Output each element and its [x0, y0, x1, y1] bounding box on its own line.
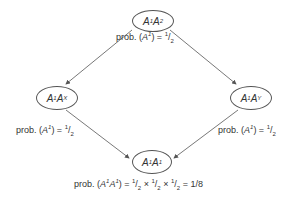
label-right: prob. (A1) = 1/2	[218, 124, 276, 137]
label-bottom: prob. (A1A1) = 1/2 × 1/2 × 1/2 = 1/8	[74, 178, 203, 191]
label-top: prob. (A1) = 1/2	[116, 31, 174, 44]
node-right: A1AY	[230, 86, 272, 110]
node-left: A1AX	[36, 86, 78, 110]
node-top: A1A2	[132, 10, 174, 32]
edge-left-bottom	[66, 110, 129, 158]
label-left: prob. (A1) = 1/2	[16, 124, 74, 137]
node-bottom: A1A1	[132, 150, 172, 174]
edge-top-right	[170, 30, 236, 84]
